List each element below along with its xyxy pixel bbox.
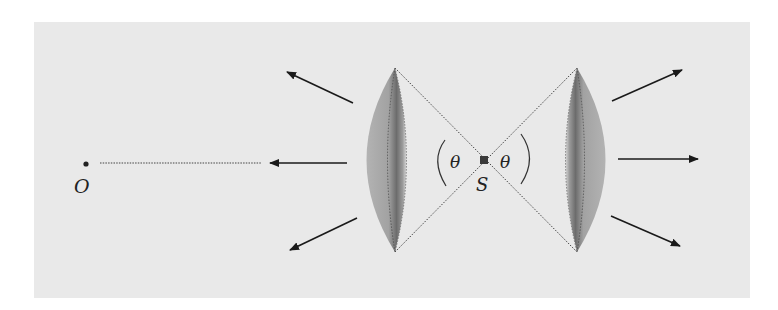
left-spherical-cap xyxy=(367,68,407,252)
emission-arrows-left xyxy=(270,72,357,250)
arrow-upper-right xyxy=(612,70,682,101)
observer-label: O xyxy=(74,175,90,197)
angle-arc-left xyxy=(438,140,446,186)
source-label: S xyxy=(476,174,488,195)
angle-label-left: θ xyxy=(450,152,460,172)
angle-arc-right xyxy=(521,134,530,184)
arrow-lower-left xyxy=(290,218,357,250)
right-spherical-cap xyxy=(566,68,606,252)
cone-emission-diagram: θ θ S O xyxy=(0,0,778,310)
arrow-lower-right xyxy=(611,216,680,246)
emission-arrows-right xyxy=(611,70,698,246)
observer-point xyxy=(83,161,88,166)
source-point xyxy=(480,156,488,164)
angle-label-right: θ xyxy=(500,152,510,172)
arrow-upper-left xyxy=(287,72,353,103)
